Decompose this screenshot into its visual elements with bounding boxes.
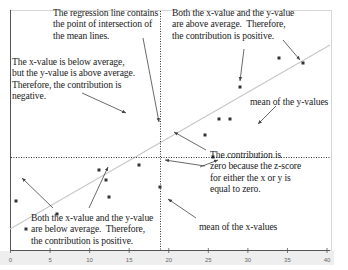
zero-note-arrow-1 bbox=[165, 160, 205, 166]
data-point bbox=[108, 196, 111, 199]
x-tick-label: 25 bbox=[205, 257, 212, 263]
regression-intersection-arrow bbox=[174, 132, 206, 150]
quadrant-lower-left-note: Both the x-value and the y-value are bel… bbox=[31, 212, 153, 246]
x-tick-label: 10 bbox=[86, 257, 93, 263]
lower-left-arrow-1 bbox=[22, 178, 53, 208]
regression-note: The regression line contains the point o… bbox=[53, 7, 158, 41]
mean-x-arrow bbox=[168, 199, 196, 218]
x-tick-label: 35 bbox=[284, 257, 291, 263]
data-point bbox=[25, 228, 28, 231]
data-point bbox=[159, 186, 162, 189]
quadrant-upper-right-note: Both the x-value and the y-value are abo… bbox=[172, 7, 294, 41]
data-point bbox=[15, 200, 18, 203]
lower-left-arrow-2 bbox=[89, 167, 108, 208]
data-point bbox=[98, 169, 101, 172]
data-point bbox=[204, 134, 207, 137]
mean-x-label: mean of the x-values bbox=[199, 221, 277, 232]
mean-y-arrow bbox=[258, 106, 276, 124]
data-point bbox=[218, 118, 221, 121]
upper-right-arrow-1 bbox=[240, 49, 244, 81]
scatter-diagram: 0510152025303540 The regression line con… bbox=[0, 0, 348, 270]
x-tick-label: 20 bbox=[165, 257, 172, 263]
data-point bbox=[229, 118, 232, 121]
x-tick-label: 15 bbox=[126, 257, 133, 263]
regression-note-arrow bbox=[143, 38, 159, 122]
data-point bbox=[105, 179, 108, 182]
zero-contribution-note: The contribution is zero because the z-s… bbox=[210, 149, 301, 195]
x-tick-label: 40 bbox=[324, 257, 331, 263]
data-point bbox=[302, 62, 305, 65]
data-point bbox=[138, 164, 141, 167]
data-point bbox=[239, 86, 242, 89]
x-tick-label: 30 bbox=[245, 257, 252, 263]
mean-y-label: mean of the y-values bbox=[250, 96, 328, 107]
data-point bbox=[278, 57, 281, 60]
quadrant-upper-left-note: The x-value is below average, but the y-… bbox=[12, 56, 135, 102]
upper-right-arrow-2 bbox=[283, 40, 300, 60]
